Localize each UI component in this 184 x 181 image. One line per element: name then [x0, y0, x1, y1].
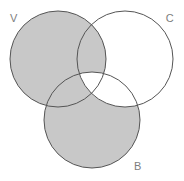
set-label-v: V	[10, 12, 18, 24]
set-label-b: B	[134, 160, 142, 172]
venn-diagram-figure: V C B	[0, 0, 184, 181]
venn-diagram-canvas: V C B	[0, 0, 184, 181]
set-label-c: C	[166, 12, 174, 24]
shaded-regions-group	[0, 0, 184, 181]
